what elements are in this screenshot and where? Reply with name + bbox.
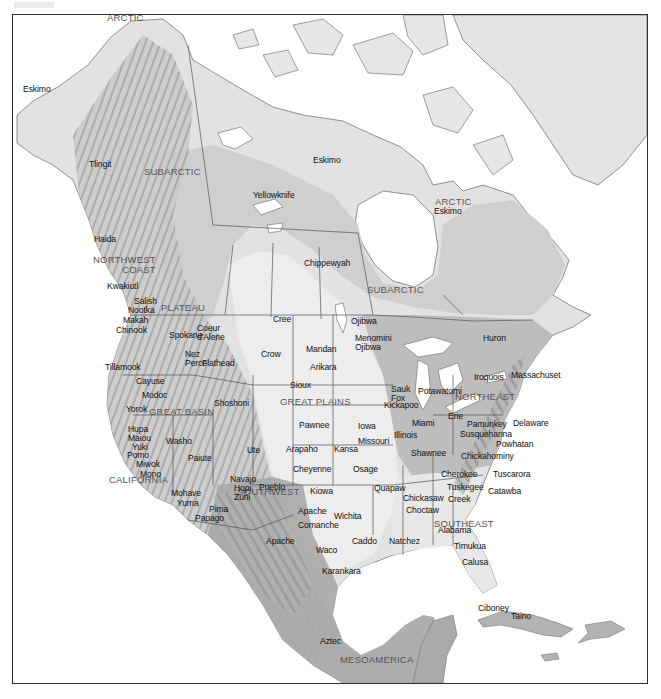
people-label: Flathead <box>202 359 235 368</box>
people-label: Chinook <box>116 326 147 335</box>
people-label: Tillamook <box>105 363 141 372</box>
map-frame: ARCTIC SUBARCTIC ARCTIC SUBARCTIC NORTHW… <box>12 14 648 684</box>
people-label: Alabama <box>438 526 471 535</box>
people-label: Eskimo <box>23 85 51 94</box>
people-label: Pueblo <box>259 483 285 492</box>
people-label: Aztec <box>320 637 341 646</box>
people-label: Miami <box>412 419 434 428</box>
people-label: Cree <box>273 315 291 324</box>
people-label: Caddo <box>352 537 377 546</box>
people-label: Taino <box>511 612 531 621</box>
people-label: Washo <box>166 437 192 446</box>
people-label: Eskimo <box>434 207 462 216</box>
people-label: Timukua <box>454 542 486 551</box>
people-label: Potawatomi <box>418 387 462 396</box>
people-label: Paiute <box>188 454 212 463</box>
people-label: Ciboney <box>478 604 509 613</box>
people-label: Modoc <box>142 391 167 400</box>
people-label: Quapaw <box>374 484 405 493</box>
caribbean-islands <box>478 611 625 661</box>
region-label-northwest-coast: NORTHWEST COAST <box>93 255 156 275</box>
people-label: Iroquois <box>474 373 504 382</box>
people-label: Mandan <box>306 345 336 354</box>
people-label: Tuscarora <box>493 470 530 479</box>
people-label: Zuni <box>234 493 250 502</box>
region-label-arctic-west: ARCTIC <box>107 14 144 23</box>
people-label: Crow <box>261 350 281 359</box>
people-label: Pamunkey <box>467 420 507 429</box>
people-label: Choctaw <box>406 506 439 515</box>
people-label: Ute <box>247 446 260 455</box>
people-label: Apache <box>266 537 295 546</box>
people-label: Tuskegee <box>447 483 484 492</box>
people-label: Powhatan <box>496 440 533 449</box>
people-label: Chickahominy <box>461 452 514 461</box>
people-label: Eskimo <box>313 156 341 165</box>
people-label: Illinois <box>394 431 417 440</box>
people-label: Yuma <box>177 499 199 508</box>
people-label: Shawnee <box>411 449 446 458</box>
region-label-plateau: PLATEAU <box>161 303 205 313</box>
caption-fragment <box>14 2 54 8</box>
people-label: Kansa <box>334 445 358 454</box>
people-label: Papago <box>195 514 224 523</box>
people-label: Karankara <box>322 567 361 576</box>
people-label: Creek <box>448 495 470 504</box>
people-label: Apache <box>298 507 327 516</box>
people-label: Massachuset <box>511 371 561 380</box>
people-label: Natchez <box>389 537 420 546</box>
people-label: Haida <box>94 235 116 244</box>
people-label: Coeur d'Alene <box>197 324 225 341</box>
people-label: Sioux <box>290 381 311 390</box>
region-label-mesoamerica: MESOAMERICA <box>340 655 413 665</box>
people-label: Arapaho <box>286 445 318 454</box>
people-label: Cherokee <box>441 470 477 479</box>
people-label: Kickapoo <box>384 401 419 410</box>
region-label-northeast: NORTHEAST <box>455 392 515 402</box>
people-label: Mono <box>140 470 161 479</box>
people-label: Ojibwa <box>351 317 377 326</box>
people-label: Menomini Ojibwa <box>355 334 391 351</box>
people-label: Susquehanna <box>460 430 512 439</box>
people-label: Chickasaw <box>403 494 444 503</box>
people-label: Calusa <box>462 558 488 567</box>
people-label: Cayuse <box>136 377 165 386</box>
people-label: Arikara <box>310 363 337 372</box>
people-label: Missouri <box>358 437 389 446</box>
people-label: Delaware <box>513 419 549 428</box>
people-label: Pawnee <box>299 421 329 430</box>
region-label-subarctic-west: SUBARCTIC <box>144 167 201 177</box>
people-label: Makah <box>123 316 148 325</box>
people-label: Chippewyah <box>304 259 350 268</box>
people-label: Cheyenne <box>293 465 331 474</box>
people-label: Yorok <box>126 405 147 414</box>
people-label: Waco <box>316 546 337 555</box>
people-label: Nootka <box>128 306 155 315</box>
people-label: Erie <box>448 412 463 421</box>
people-label: Shoshoni <box>214 399 249 408</box>
region-label-great-plains: GREAT PLAINS <box>280 397 351 407</box>
region-label-subarctic-east: SUBARCTIC <box>367 285 424 295</box>
people-label: Catawba <box>488 487 521 496</box>
people-label: Kwakiutl <box>107 282 138 291</box>
greenland <box>453 15 647 185</box>
people-label: Tlingit <box>89 160 111 169</box>
people-label: Iowa <box>358 422 376 431</box>
people-label: Osage <box>353 465 378 474</box>
people-label: Mohave <box>171 489 201 498</box>
people-label: Yellowknife <box>253 191 295 200</box>
people-label: Huron <box>483 334 506 343</box>
people-label: Kiowa <box>310 487 333 496</box>
people-label: Miwok <box>136 460 160 469</box>
people-label: Comanche <box>298 521 339 530</box>
region-label-great-basin: GREAT BASIN <box>149 407 214 417</box>
